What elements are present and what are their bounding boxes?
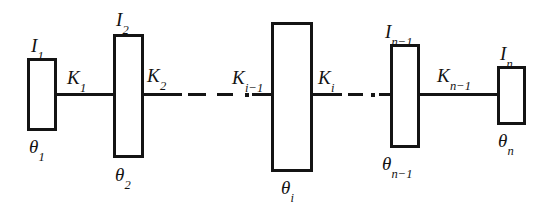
label-inertia-in: In [500, 44, 513, 67]
rotor-block-i1 [27, 58, 57, 131]
label-stiffness-ki-1: Ki−1 [232, 68, 263, 91]
label-stiffness-ki: Ki [318, 68, 334, 91]
rotor-block-in-1 [390, 44, 420, 148]
label-angle-thetan-1-sub: n−1 [392, 167, 413, 181]
shaft-segment-k1 [56, 93, 116, 96]
label-angle-theta1: θ1 [29, 137, 45, 160]
label-inertia-i2-base: I [116, 9, 122, 30]
continuation-dot-right [371, 93, 375, 97]
rotor-block-in [497, 66, 526, 125]
label-angle-theta1-base: θ [29, 136, 38, 157]
continuation-dash-right-1 [348, 93, 363, 96]
label-inertia-i1-sub: 1 [38, 49, 44, 63]
label-inertia-i1: I1 [31, 36, 44, 59]
label-inertia-in-1-base: I [385, 21, 391, 42]
label-angle-theta2-base: θ [115, 164, 124, 185]
label-angle-theta2: θ2 [115, 165, 131, 188]
label-stiffness-k2-base: K [147, 65, 160, 86]
torsional-shaft-diagram: I1 I2 In−1 In K1 K2 Ki−1 Ki Kn−1 θ1 θ2 θ… [0, 0, 556, 208]
rotor-block-ii [271, 22, 313, 172]
label-angle-thetai-sub: i [291, 191, 294, 205]
label-stiffness-ki-1-base: K [232, 67, 245, 88]
label-angle-thetan-1: θn−1 [382, 154, 412, 177]
label-inertia-i1-base: I [31, 35, 37, 56]
shaft-segment-kn-1 [418, 93, 499, 96]
shaft-segment-ki [311, 93, 342, 96]
continuation-dash-left-1 [188, 93, 206, 96]
label-inertia-in-1-sub: n−1 [392, 35, 413, 49]
label-angle-thetan-1-base: θ [382, 153, 391, 174]
label-stiffness-k1-base: K [67, 67, 80, 88]
label-angle-thetan-sub: n [508, 144, 514, 158]
label-inertia-in-base: I [500, 43, 506, 64]
label-angle-thetan-base: θ [498, 130, 507, 151]
label-stiffness-ki-base: K [318, 67, 331, 88]
label-stiffness-kn-1: Kn−1 [437, 66, 471, 89]
label-stiffness-k1-sub: 1 [80, 81, 86, 95]
continuation-dash-left-2 [217, 93, 233, 96]
label-inertia-i2-sub: 2 [123, 23, 129, 37]
label-angle-thetan: θn [498, 131, 514, 154]
label-angle-theta1-sub: 1 [39, 150, 45, 164]
label-stiffness-k2: K2 [147, 66, 166, 89]
label-stiffness-kn-1-sub: n−1 [450, 79, 471, 93]
label-angle-theta2-sub: 2 [125, 178, 131, 192]
label-angle-thetai-base: θ [281, 177, 290, 198]
rotor-block-i2 [113, 34, 144, 158]
label-inertia-i2: I2 [116, 10, 129, 33]
shaft-segment-k2 [142, 93, 182, 96]
label-angle-thetai: θi [281, 178, 294, 201]
label-stiffness-ki-sub: i [331, 81, 334, 95]
label-stiffness-kn-1-base: K [437, 65, 450, 86]
label-stiffness-ki-1-sub: i−1 [245, 81, 263, 95]
label-inertia-in-1: In−1 [385, 22, 412, 45]
label-stiffness-k1: K1 [67, 68, 86, 91]
label-inertia-in-sub: n [507, 57, 513, 71]
label-stiffness-k2-sub: 2 [160, 79, 166, 93]
